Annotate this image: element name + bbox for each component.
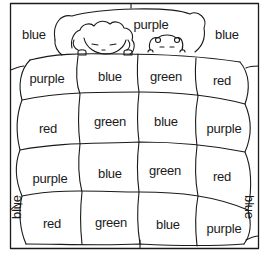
quilt-cell-r2c2: green — [94, 115, 126, 128]
quilt-cell-r2c4: purple — [207, 122, 242, 135]
quilt-cell-r3c2: blue — [98, 167, 122, 180]
quilt-cell-r1c4: red — [213, 74, 231, 87]
quilt-cell-r4c4: purple — [207, 222, 242, 235]
quilt-cell-r4c1: red — [43, 217, 61, 230]
quilt-cell-r4c3: blue — [156, 218, 180, 231]
quilt-cell-r2c1: red — [39, 122, 57, 135]
child-face — [84, 38, 126, 54]
label-top-right: blue — [215, 28, 239, 41]
label-right-side: blue — [243, 195, 256, 219]
quilt-cell-r3c4: red — [213, 170, 231, 183]
label-left-side: blue — [10, 195, 23, 219]
quilt-cell-r1c3: green — [150, 70, 182, 83]
quilt-cell-r3c1: purple — [33, 172, 68, 185]
quilt-cell-r1c2: blue — [98, 70, 122, 83]
quilt-cell-r3c3: green — [149, 164, 181, 177]
child-hair — [71, 21, 134, 54]
label-top-left: blue — [22, 28, 46, 41]
quilt-seam-bottom — [26, 244, 244, 246]
quilt-cell-r4c2: green — [95, 216, 127, 229]
coloring-page: blue purple blue blue blue purple blue g… — [0, 0, 264, 269]
quilt-cell-r2c3: blue — [154, 115, 178, 128]
label-top-center: purple — [134, 18, 169, 31]
quilt-cell-r1c1: purple — [30, 72, 65, 85]
quilt-seam-top — [30, 54, 240, 62]
